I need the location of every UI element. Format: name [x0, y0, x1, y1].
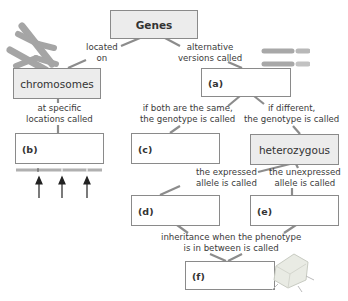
- answer-box-f[interactable]: (f): [185, 261, 275, 290]
- link-located-on: located on: [86, 42, 118, 64]
- link-specific-locations: at specific locations called: [26, 103, 93, 125]
- caption-line: allele is called: [196, 178, 257, 189]
- link-if-different: if different, the genotype is called: [244, 103, 339, 125]
- caption-line: is in between is called: [161, 243, 301, 254]
- caption-line: if both are the same,: [140, 103, 235, 114]
- answer-box-a[interactable]: (a): [201, 68, 291, 97]
- answer-box-e[interactable]: (e): [250, 195, 339, 226]
- caption-line: the expressed: [196, 167, 257, 178]
- answer-box-b-label: (b): [22, 143, 37, 154]
- caption-line: located: [86, 42, 118, 53]
- genes-box: Genes: [110, 10, 198, 39]
- link-alternative-versions: alternative versions called: [178, 42, 242, 64]
- caption-line: at specific: [26, 103, 93, 114]
- answer-box-d-label: (d): [138, 205, 153, 216]
- answer-box-e-label: (e): [257, 205, 272, 216]
- answer-box-c-label: (c): [138, 143, 152, 154]
- caption-line: on: [86, 53, 118, 64]
- link-expressed-allele: the expressed allele is called: [196, 167, 257, 189]
- answer-box-d[interactable]: (d): [131, 195, 220, 226]
- genes-label: Genes: [136, 19, 173, 31]
- answer-box-f-label: (f): [192, 270, 205, 281]
- caption-line: alternative: [178, 42, 242, 53]
- caption-line: allele is called: [269, 178, 341, 189]
- link-both-same: if both are the same, the genotype is ca…: [140, 103, 235, 125]
- link-in-between-phenotype: inheritance when the phenotype is in bet…: [161, 232, 301, 254]
- gene-loci-illustration-icon: [14, 166, 106, 202]
- homologous-chromosomes-icon: [260, 46, 310, 70]
- answer-box-c[interactable]: (c): [131, 133, 220, 164]
- answer-box-b[interactable]: (b): [15, 133, 104, 164]
- answer-box-a-label: (a): [208, 77, 223, 88]
- chromosomes-box: chromosomes: [13, 68, 101, 99]
- caption-line: the unexpressed: [269, 167, 341, 178]
- heterozygous-label: heterozygous: [259, 144, 330, 156]
- caption-line: inheritance when the phenotype: [161, 232, 301, 243]
- chromosomes-label: chromosomes: [20, 78, 94, 90]
- caption-line: the genotype is called: [244, 114, 339, 125]
- caption-line: if different,: [244, 103, 339, 114]
- heterozygous-box: heterozygous: [250, 134, 339, 165]
- caption-line: versions called: [178, 53, 242, 64]
- caption-line: locations called: [26, 114, 93, 125]
- caption-line: the genotype is called: [140, 114, 235, 125]
- link-unexpressed-allele: the unexpressed allele is called: [269, 167, 341, 189]
